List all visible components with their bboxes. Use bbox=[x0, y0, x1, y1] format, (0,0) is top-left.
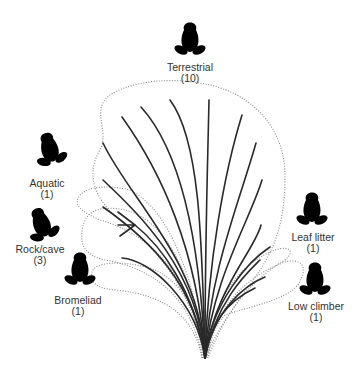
label-aquatic: Aquatic (1) bbox=[29, 178, 64, 200]
frog-icon-lowclimber bbox=[295, 261, 335, 298]
group-count: (1) bbox=[54, 306, 101, 317]
group-outlines bbox=[77, 81, 303, 358]
frog-icon-rockcave bbox=[17, 200, 67, 248]
frog-icon-aquatic bbox=[26, 126, 74, 172]
label-rockcave: Rock/cave (3) bbox=[15, 244, 64, 266]
group-count: (1) bbox=[29, 189, 64, 200]
frog-icon-bromeliad bbox=[60, 251, 100, 288]
label-leaflitter: Leaf litter (1) bbox=[291, 232, 334, 254]
label-terrestrial: Terrestrial (10) bbox=[167, 62, 213, 84]
group-count: (3) bbox=[15, 255, 64, 266]
diagram-canvas: Terrestrial (10) Aquatic (1) Rock/cave (… bbox=[0, 0, 362, 371]
outline-bromeliad bbox=[92, 263, 204, 358]
outline-aquatic bbox=[77, 187, 205, 358]
group-count: (1) bbox=[288, 312, 344, 323]
frog-icon-leaflitter bbox=[292, 191, 332, 228]
frog-icon-terrestrial bbox=[170, 21, 210, 58]
tree-branches bbox=[103, 100, 270, 358]
group-count: (10) bbox=[167, 73, 213, 84]
label-lowclimber: Low climber (1) bbox=[288, 301, 344, 323]
label-bromeliad: Bromeliad (1) bbox=[54, 295, 101, 317]
group-count: (1) bbox=[291, 243, 334, 254]
